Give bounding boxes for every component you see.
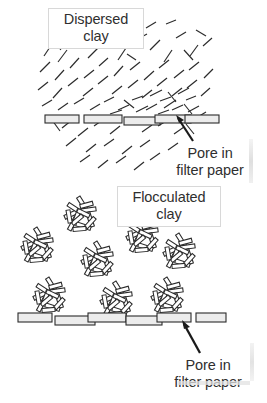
scan-artifact-right-lower xyxy=(250,343,254,381)
label-pore-top-line1: Pore in xyxy=(187,145,232,161)
label-flocculated-clay-line1: Flocculated xyxy=(132,189,205,205)
label-flocculated-clay-line2: clay xyxy=(122,206,216,223)
floc-8 xyxy=(151,277,183,313)
label-dispersed-clay: Dispersed clay xyxy=(48,8,144,49)
floc-1 xyxy=(64,196,96,232)
label-flocculated-clay: Flocculated clay xyxy=(117,186,221,227)
pore-top-2 xyxy=(84,115,122,123)
label-dispersed-clay-line2: clay xyxy=(53,28,139,45)
label-pore-bottom: Pore in filter paper xyxy=(152,355,264,394)
filter-paper-pores-top xyxy=(45,115,219,125)
figure-canvas: Dispersed clay Flocculated clay Pore in … xyxy=(0,0,267,403)
scan-artifact-bottom-smudge xyxy=(178,381,250,385)
pore-bottom-6 xyxy=(196,313,226,322)
label-dispersed-clay-line1: Dispersed xyxy=(64,11,128,27)
label-pore-top-line2: filter paper xyxy=(162,162,258,179)
floc-6 xyxy=(33,277,65,313)
filter-paper-pores-bottom xyxy=(18,313,226,325)
label-pore-top: Pore in filter paper xyxy=(158,143,262,182)
pore-top-1 xyxy=(45,115,79,123)
pore-bottom-5 xyxy=(157,313,191,322)
floc-5 xyxy=(163,233,195,269)
label-pore-bottom-line1: Pore in xyxy=(185,357,230,373)
pore-top-5 xyxy=(185,115,219,123)
scan-artifact-right-upper xyxy=(249,139,253,183)
pore-bottom-arrow xyxy=(182,320,200,353)
pore-bottom-3 xyxy=(88,313,126,322)
floc-7 xyxy=(100,281,132,317)
pore-bottom-1 xyxy=(18,313,52,322)
floc-2 xyxy=(21,227,53,263)
floc-3 xyxy=(81,241,113,277)
